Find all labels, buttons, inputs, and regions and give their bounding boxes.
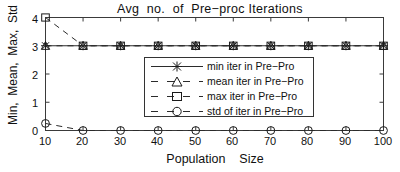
legend-label-mean: mean iter in Pre−Pro [207, 75, 304, 88]
series-2 [42, 14, 388, 49]
chart-figure: Avg no. of Pre−proc Iterations Min, Mean… [0, 0, 400, 172]
legend-label-std: std of iter in Pre−Pro [207, 105, 303, 118]
asterisk-marker [172, 62, 182, 72]
legend-sample-mean [149, 74, 205, 89]
legend-row-min: min iter in Pre−Pro [145, 59, 315, 74]
legend-label-max: max iter in Pre−Pro [207, 90, 297, 103]
legend-row-mean: mean iter in Pre−Pro [145, 74, 315, 89]
circle-marker [173, 107, 181, 115]
series-3 [42, 120, 388, 135]
legend-sample-max [149, 89, 205, 104]
legend-label-min: min iter in Pre−Pro [207, 60, 294, 73]
legend: min iter in Pre−Pro mean iter in Pre−Pro… [144, 57, 314, 117]
legend-sample-min [149, 59, 205, 74]
legend-row-max: max iter in Pre−Pro [145, 89, 315, 104]
legend-row-std: std of iter in Pre−Pro [145, 104, 315, 119]
legend-sample-std [149, 104, 205, 119]
